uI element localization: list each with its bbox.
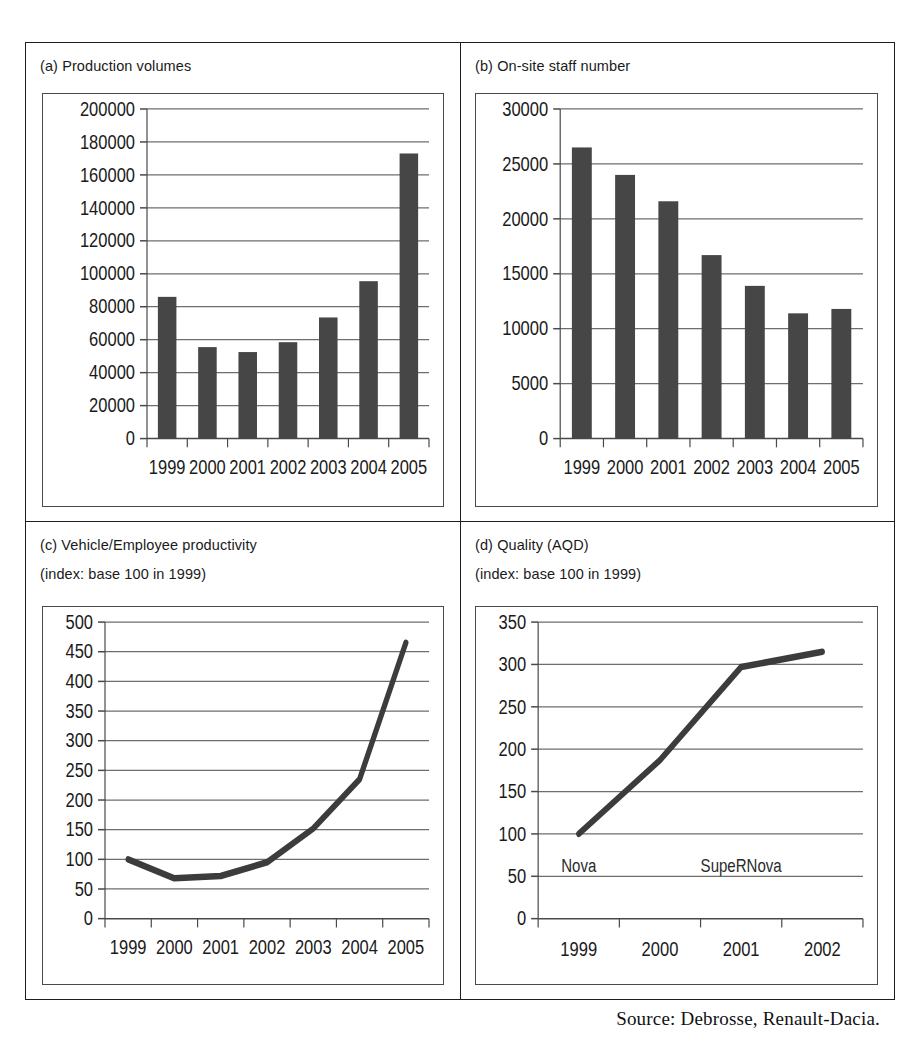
y-tick-label: 50 (75, 877, 93, 900)
bar (615, 175, 635, 439)
panel-c-title: (c) Vehicle/Employee productivity (40, 536, 448, 554)
y-tick-label: 160000 (80, 163, 135, 186)
y-tick-label: 40000 (89, 361, 135, 384)
x-tick-label: 2002 (804, 938, 841, 961)
y-tick-label: 250 (65, 758, 93, 781)
x-tick-label: 2005 (823, 455, 860, 478)
x-tick-label: 2004 (341, 935, 378, 958)
y-tick-label: 60000 (89, 328, 135, 351)
x-tick-label: 2001 (229, 455, 266, 478)
y-tick-label: 500 (65, 610, 93, 633)
y-tick-label: 150 (65, 818, 93, 841)
y-tick-label: 0 (517, 907, 526, 930)
bar (572, 147, 592, 438)
panel-quality-aqd: (d) Quality (AQD) (index: base 100 in 19… (460, 521, 894, 999)
panel-vehicle-employee-productivity: (c) Vehicle/Employee productivity (index… (26, 521, 460, 999)
y-tick-label: 100000 (80, 262, 135, 285)
y-tick-label: 200 (499, 737, 527, 760)
x-tick-label: 2001 (723, 938, 760, 961)
bar (279, 342, 298, 438)
x-tick-label: 2000 (607, 455, 644, 478)
y-tick-label: 350 (65, 699, 93, 722)
x-tick-label: 2003 (295, 935, 332, 958)
chart-b-svg: 0500010000150002000025000300001999200020… (476, 94, 877, 506)
x-tick-label: 2001 (650, 455, 687, 478)
y-tick-label: 250 (499, 695, 527, 718)
bar (238, 352, 257, 439)
bar (359, 281, 378, 438)
bar (788, 313, 808, 438)
data-line (128, 643, 406, 878)
y-tick-label: 140000 (80, 196, 135, 219)
data-line (579, 652, 823, 834)
panel-b-title: (b) On-site staff number (475, 57, 882, 75)
chart-d-svg: 050100150200250300350NovaSupeRNova199920… (476, 607, 877, 984)
figure-page: (a) Production volumes 02000040000600008… (0, 0, 917, 1047)
x-tick-label: 2001 (202, 935, 239, 958)
y-tick-label: 100 (65, 847, 93, 870)
x-tick-label: 2000 (642, 938, 679, 961)
panel-onsite-staff: (b) On-site staff number 050001000015000… (460, 43, 894, 521)
y-tick-label: 0 (84, 907, 93, 930)
x-tick-label: 2002 (249, 935, 286, 958)
x-tick-label: 1999 (563, 455, 600, 478)
y-tick-label: 0 (126, 426, 135, 449)
series-annotation: Nova (561, 855, 597, 876)
x-tick-label: 2000 (156, 935, 193, 958)
x-tick-label: 2003 (310, 455, 347, 478)
x-tick-label: 2004 (350, 455, 387, 478)
y-tick-label: 10000 (502, 317, 548, 340)
panel-production-volumes: (a) Production volumes 02000040000600008… (26, 43, 460, 521)
x-tick-label: 1999 (110, 935, 147, 958)
x-tick-label: 2005 (391, 455, 428, 478)
y-tick-label: 300 (499, 652, 527, 675)
panel-d-subtitle: (index: base 100 in 1999) (475, 565, 882, 583)
bar (400, 153, 419, 438)
y-tick-label: 50 (508, 864, 526, 887)
y-tick-label: 180000 (80, 130, 135, 153)
y-tick-label: 300 (65, 729, 93, 752)
bar (319, 317, 338, 438)
bar (158, 297, 177, 439)
bar (745, 286, 765, 439)
x-tick-label: 2002 (270, 455, 307, 478)
chart-c-plot-box: 0501001502002503003504004505001999200020… (42, 606, 444, 985)
y-tick-label: 450 (65, 640, 93, 663)
chart-c-svg: 0501001502002503003504004505001999200020… (43, 607, 443, 984)
x-tick-label: 2004 (780, 455, 817, 478)
chart-b-plot-box: 0500010000150002000025000300001999200020… (475, 93, 878, 507)
series-annotation: SupeRNova (701, 855, 783, 876)
y-tick-label: 400 (65, 669, 93, 692)
y-tick-label: 30000 (502, 97, 548, 120)
y-tick-label: 25000 (502, 152, 548, 175)
y-tick-label: 350 (499, 610, 527, 633)
x-tick-label: 1999 (560, 938, 597, 961)
x-tick-label: 2000 (189, 455, 226, 478)
y-tick-label: 15000 (502, 262, 548, 285)
x-tick-label: 2005 (388, 935, 425, 958)
y-tick-label: 100 (499, 822, 527, 845)
chart-a-svg: 0200004000060000800001000001200001400001… (43, 94, 443, 506)
chart-d-plot-box: 050100150200250300350NovaSupeRNova199920… (475, 606, 878, 985)
panel-c-subtitle: (index: base 100 in 1999) (40, 565, 448, 583)
y-tick-label: 0 (539, 427, 548, 450)
y-tick-label: 20000 (502, 207, 548, 230)
x-tick-label: 1999 (149, 455, 186, 478)
bar (658, 201, 678, 438)
y-tick-label: 120000 (80, 229, 135, 252)
y-tick-label: 5000 (511, 372, 548, 395)
y-tick-label: 200 (65, 788, 93, 811)
x-tick-label: 2002 (693, 455, 730, 478)
panel-d-title: (d) Quality (AQD) (475, 536, 882, 554)
y-tick-label: 80000 (89, 295, 135, 318)
source-note: Source: Debrosse, Renault-Dacia. (0, 1008, 880, 1030)
bar (198, 347, 217, 438)
y-tick-label: 150 (499, 779, 527, 802)
chart-a-plot-box: 0200004000060000800001000001200001400001… (42, 93, 444, 507)
figure-grid: (a) Production volumes 02000040000600008… (25, 42, 895, 1000)
panel-a-title: (a) Production volumes (40, 57, 448, 75)
y-tick-label: 20000 (89, 394, 135, 417)
x-tick-label: 2003 (736, 455, 773, 478)
bar (702, 255, 722, 438)
y-tick-label: 200000 (80, 97, 135, 120)
